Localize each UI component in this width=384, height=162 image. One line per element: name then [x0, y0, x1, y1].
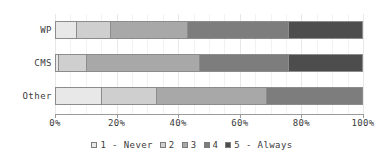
bar-row: [55, 54, 363, 72]
bar-segment: [77, 22, 111, 38]
chart-legend: 1 - Never2345 - Always: [0, 140, 384, 150]
x-axis-label: 60%: [231, 118, 248, 128]
bar-segment: [289, 55, 362, 71]
legend-label: 5 - Always: [234, 140, 292, 150]
gridline-major: [363, 14, 364, 114]
x-axis-label: 20%: [108, 118, 125, 128]
legend-item[interactable]: 5 - Always: [225, 140, 292, 150]
legend-label: 2: [169, 140, 175, 150]
legend-swatch-icon: [182, 142, 188, 148]
y-axis-label-wp: WP: [4, 25, 52, 35]
legend-item[interactable]: 4: [204, 140, 219, 150]
bar-segment: [289, 22, 362, 38]
legend-item[interactable]: 2: [160, 140, 175, 150]
legend-swatch-icon: [160, 142, 166, 148]
bar-segment: [56, 22, 77, 38]
legend-swatch-icon: [225, 142, 231, 148]
stacked-bar-chart: WPCMSOther 0%20%40%60%80%100% 1 - Never2…: [0, 0, 384, 162]
bar-row: [55, 21, 363, 39]
legend-label: 3: [191, 140, 197, 150]
bar-segment: [157, 88, 267, 104]
x-axis-label: 100%: [352, 118, 375, 128]
x-axis-line: [55, 114, 364, 115]
legend-label: 1 - Never: [100, 140, 152, 150]
x-axis-label: 80%: [293, 118, 310, 128]
bar-row: [55, 87, 363, 105]
plot-area: [55, 14, 363, 114]
bar-segment: [56, 88, 102, 104]
legend-item[interactable]: 1 - Never: [91, 140, 152, 150]
bar-segment: [267, 88, 362, 104]
y-axis-labels: WPCMSOther: [0, 14, 52, 114]
x-axis-label: 0%: [49, 118, 60, 128]
bar-segment: [111, 22, 188, 38]
x-axis-label: 40%: [170, 118, 187, 128]
legend-swatch-icon: [204, 142, 210, 148]
bar-segment: [102, 88, 157, 104]
bar-segment: [188, 22, 289, 38]
y-axis-label-cms: CMS: [4, 58, 52, 68]
bar-segment: [200, 55, 289, 71]
legend-item[interactable]: 3: [182, 140, 197, 150]
x-axis-tick-labels: 0%20%40%60%80%100%: [0, 118, 384, 132]
legend-label: 4: [213, 140, 219, 150]
y-axis-label-other: Other: [4, 91, 52, 101]
bar-segment: [59, 55, 87, 71]
bar-segment: [87, 55, 200, 71]
legend-swatch-icon: [91, 142, 97, 148]
